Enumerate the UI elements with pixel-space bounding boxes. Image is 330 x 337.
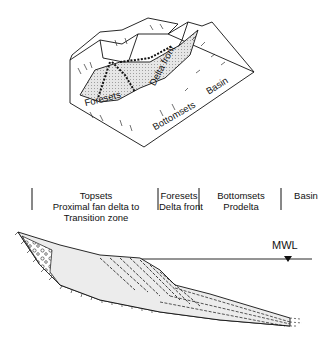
zone-foresets: Foresets Delta front bbox=[159, 190, 199, 212]
label-mwl: MWL bbox=[272, 240, 298, 251]
zone-topsets: Topsets Proximal fan delta to Transition… bbox=[40, 190, 152, 223]
zone-topsets-line3: Transition zone bbox=[40, 212, 152, 223]
zone-topsets-line2: Proximal fan delta to bbox=[40, 201, 152, 212]
zone-topsets-line1: Topsets bbox=[40, 190, 152, 201]
zone-basin: Basin bbox=[286, 190, 326, 201]
zone-foresets-line2: Delta front bbox=[159, 201, 199, 212]
zone-bottomsets-line1: Bottomsets bbox=[205, 190, 277, 201]
zone-bottomsets: Bottomsets Prodelta bbox=[205, 190, 277, 212]
zone-bottomsets-line2: Prodelta bbox=[205, 201, 277, 212]
zone-foresets-line1: Foresets bbox=[159, 190, 199, 201]
zone-basin-line1: Basin bbox=[286, 190, 326, 201]
